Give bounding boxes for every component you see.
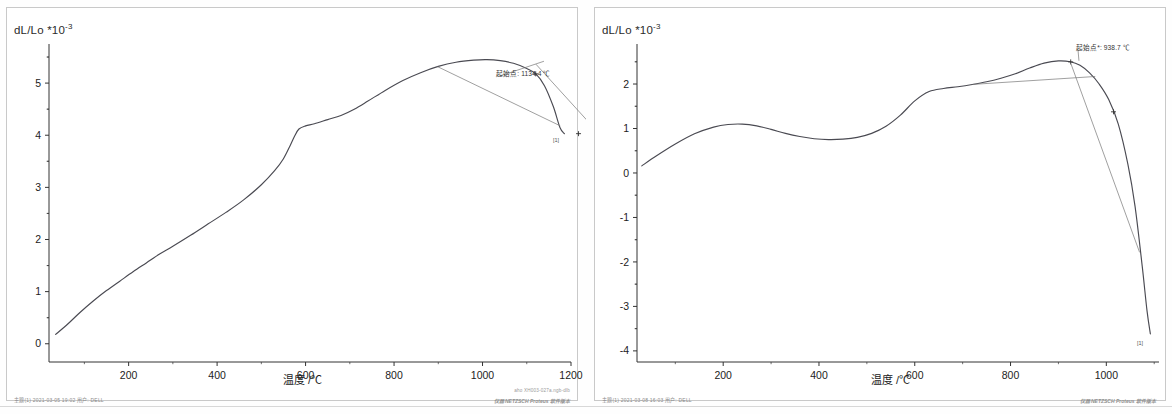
footer-brand-right: 仪器 NETZSCH Proteus 软件版本 [1080, 397, 1156, 404]
footer-brand-left: 仪器 NETZSCH Proteus 软件版本 [494, 397, 570, 404]
panel-border-right [594, 7, 1166, 401]
curve-end-label-right: [1] [1137, 340, 1143, 346]
panel-border-left [6, 7, 578, 401]
x-axis-label-right: 温度 /℃ [871, 371, 910, 387]
footer-meta-right: 主题(1) 2021-03-08 16:03 用户: DELL [602, 396, 692, 403]
y-axis-label-left: dL/Lo *10-3 [14, 22, 73, 36]
curve-end-label-left: [1] [553, 137, 559, 143]
dilatometry-sheet: dL/Lo *10-3 20040060080010001200012345 起… [0, 0, 1173, 414]
sheet-divider-left [0, 406, 586, 407]
footer-meta-left: 主题(1) 2021-03-05 19:02 用户: DELL [14, 396, 104, 403]
chart-panel-left: dL/Lo *10-3 20040060080010001200012345 起… [0, 0, 586, 414]
onset-annotation-right: 起始点*: 938.7 ℃ [1076, 42, 1130, 52]
chart-panel-right: dL/Lo *10-3 2004006008001000-4-3-2-1012 … [586, 0, 1172, 414]
onset-annotation-left: 起始点: 1134.4 ℃ [496, 68, 550, 78]
sheet-divider-right [586, 406, 1172, 407]
y-axis-label-right: dL/Lo *10-3 [602, 22, 661, 36]
x-axis-label-left: 温度 /℃ [283, 371, 322, 387]
footer-file-left: aho XH003-027a.ngb-dlb [514, 388, 570, 395]
